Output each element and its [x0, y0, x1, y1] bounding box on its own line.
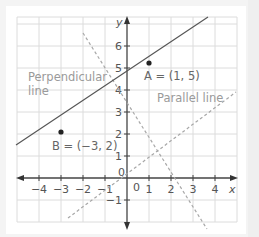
x-tick-label: 4 [212, 183, 219, 196]
point-b [58, 129, 63, 134]
y-tick-label: 5 [115, 62, 122, 75]
point-b-label: B = (−3, 2) [52, 139, 117, 153]
parallel-line-label: Parallel line [157, 91, 223, 105]
x-tick-label: −4 [31, 183, 47, 196]
y-axis-down-arrow-icon [124, 222, 130, 230]
x-tick-label: 1 [146, 183, 153, 196]
x-tick-label: 2 [168, 183, 175, 196]
parallel-line [68, 92, 236, 218]
x-tick-label: −2 [75, 183, 91, 196]
point-a [146, 60, 151, 65]
origin-label: 0 [133, 181, 140, 194]
x-tick-label: 3 [190, 183, 197, 196]
origin-label-small: 0 [118, 166, 125, 179]
y-tick-label: −1 [106, 194, 122, 207]
point-a-label: A = (1, 5) [144, 69, 200, 83]
y-axis-label: y [115, 16, 123, 29]
y-tick-label: 6 [115, 40, 122, 53]
x-tick-label: −3 [53, 183, 69, 196]
perpendicular-line-label: Perpendicular [28, 70, 107, 84]
perpendicular-line-label-2: line [28, 84, 49, 98]
x-axis-label: x [228, 183, 236, 196]
y-tick-label: 3 [115, 106, 122, 119]
coordinate-plane: −4 −3 −2 −1 1 2 3 4 0 0 6 5 4 3 2 1 −1 y… [0, 0, 259, 237]
y-axis [124, 16, 130, 230]
